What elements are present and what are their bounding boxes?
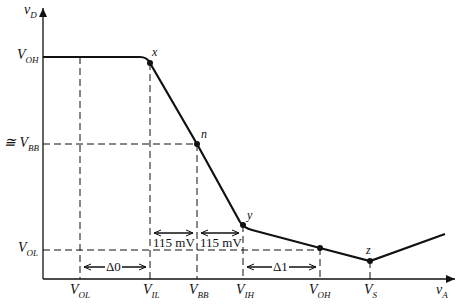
x-label-vil: VIL — [143, 282, 160, 300]
point-y-label: y — [247, 208, 252, 223]
x-label-vs: VS — [364, 282, 377, 300]
transfer-curve — [43, 57, 445, 261]
x-label-voh: VOH — [309, 282, 331, 300]
y-label-vol: VOL — [18, 240, 38, 258]
vtc-diagram: vD vA VOH ≅ VBB VOL VOL VIL VBB VIH VOH … — [0, 0, 461, 304]
diagram-graphics — [0, 0, 461, 304]
margin-left-annotation: 115 mV — [152, 235, 196, 251]
delta0-annotation: Δ0 — [105, 259, 122, 275]
point-n-label: n — [201, 127, 207, 142]
x-label-vih: VIH — [236, 282, 254, 300]
point-z-label: z — [366, 243, 371, 258]
margin-right-annotation: 115 mV — [199, 235, 243, 251]
y-axis-title: vD — [24, 2, 37, 20]
x-label-vol: VOL — [70, 282, 90, 300]
x-axis-title: vA — [436, 282, 448, 300]
point-x-label: x — [152, 45, 157, 60]
y-label-voh: VOH — [17, 47, 39, 65]
y-label-vbb: ≅ VBB — [4, 134, 39, 153]
x-label-vbb: VBB — [189, 282, 209, 300]
delta1-annotation: Δ1 — [272, 259, 289, 275]
